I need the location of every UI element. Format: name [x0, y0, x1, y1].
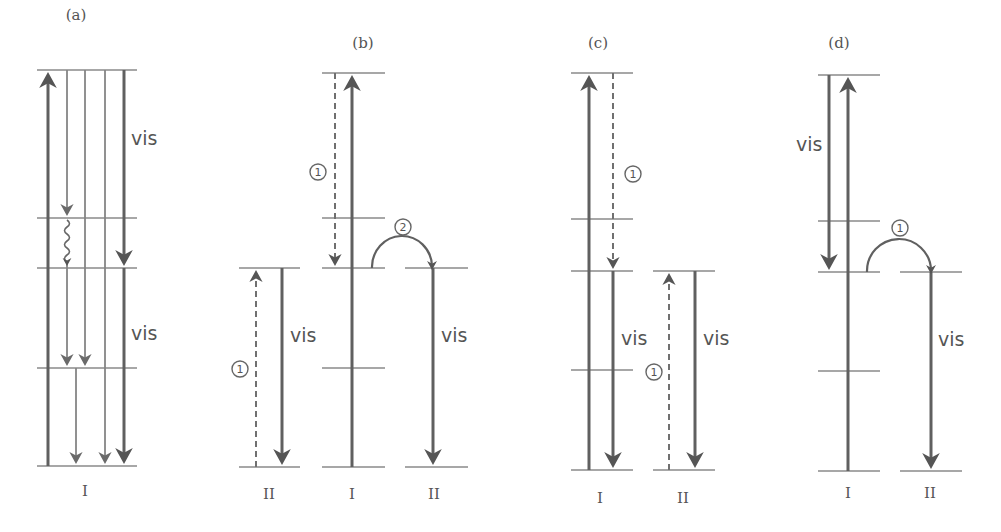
- vis-emission-label: vis: [131, 322, 157, 344]
- nonradiative-relaxation-wavy: [63, 220, 72, 266]
- nonradiative-transition-arrow: [249, 270, 262, 467]
- transition-arrow: [69, 368, 82, 464]
- transition-arrow: [820, 75, 838, 270]
- panel-c: (c)11visvisIII: [571, 34, 729, 507]
- vis-emission-label: vis: [131, 127, 157, 149]
- arrowhead-icon: [63, 258, 72, 266]
- energy-level-diagram: (a)visvisI(b)121visvisIIIII(c)11visvisII…: [0, 0, 1001, 532]
- arrowhead-icon: [249, 270, 262, 282]
- arrowhead-icon: [662, 273, 675, 285]
- transition-arrow: [580, 75, 598, 470]
- vis-emission-label: vis: [441, 324, 467, 346]
- energy-transfer-arc: [372, 236, 437, 270]
- nonradiative-transition-arrow: [606, 73, 619, 269]
- step-number-badge: 1: [232, 361, 248, 377]
- nonradiative-transition-arrow: [328, 73, 341, 266]
- panel-b: (b)121visvisIIIII: [232, 34, 468, 503]
- transition-arrow: [115, 70, 133, 266]
- ion-state-label: I: [82, 482, 88, 500]
- transition-arrow: [60, 70, 73, 216]
- panel-d: (d)1visvisIII: [796, 34, 964, 502]
- energy-transfer-arc: [867, 239, 936, 274]
- nonradiative-transition-arrow: [662, 273, 675, 470]
- svg-text:1: 1: [897, 222, 904, 235]
- transition-arrow: [686, 271, 704, 468]
- ion-state-label: II: [263, 485, 275, 503]
- transition-arrow: [115, 268, 133, 464]
- vis-emission-label: vis: [938, 328, 964, 350]
- ion-state-label: II: [428, 485, 440, 503]
- svg-text:2: 2: [400, 221, 407, 234]
- transition-arrow: [98, 70, 111, 464]
- svg-text:1: 1: [315, 166, 322, 179]
- ion-state-label: II: [677, 489, 689, 507]
- ion-state-label: I: [349, 485, 355, 503]
- transition-arrow: [922, 272, 940, 469]
- ion-state-label: I: [845, 484, 851, 502]
- transition-arrow: [839, 77, 857, 471]
- ion-state-label: I: [597, 489, 603, 507]
- panels-layer: (a)visvisI(b)121visvisIIIII(c)11visvisII…: [37, 6, 964, 507]
- step-number-badge: 1: [646, 364, 662, 380]
- vis-emission-label: vis: [796, 133, 822, 155]
- step-number-badge: 2: [395, 219, 411, 235]
- transition-arrow: [273, 268, 291, 465]
- step-number-badge: 1: [625, 166, 641, 182]
- diagram-canvas: (a)visvisI(b)121visvisIIIII(c)11visvisII…: [0, 0, 1001, 532]
- transition-arrow: [343, 75, 361, 467]
- svg-text:1: 1: [651, 366, 658, 379]
- step-number-badge: 1: [892, 220, 908, 236]
- panel-title: (b): [352, 34, 373, 52]
- svg-text:1: 1: [630, 168, 637, 181]
- svg-text:1: 1: [237, 363, 244, 376]
- panel-a: (a)visvisI: [37, 6, 157, 500]
- panel-title: (c): [588, 34, 608, 52]
- transition-arrow: [60, 262, 73, 366]
- vis-emission-label: vis: [621, 327, 647, 349]
- step-number-badge: 1: [310, 164, 326, 180]
- transition-arrow: [424, 268, 442, 465]
- ion-state-label: II: [924, 484, 936, 502]
- transition-arrow: [39, 72, 57, 466]
- vis-emission-label: vis: [703, 327, 729, 349]
- panel-title: (a): [66, 6, 87, 24]
- vis-emission-label: vis: [290, 324, 316, 346]
- panel-title: (d): [828, 34, 849, 52]
